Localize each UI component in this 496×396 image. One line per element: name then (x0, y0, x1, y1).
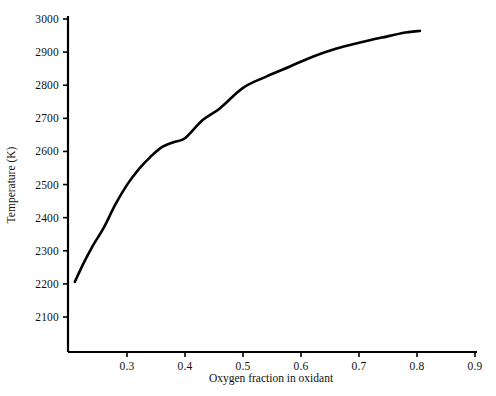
x-tick-label: 0.5 (236, 360, 251, 372)
axis-lines (68, 16, 477, 352)
y-axis-title: Temperature (K) (5, 147, 17, 224)
y-tick-label: 2100 (35, 311, 59, 323)
x-tick-label: 0.9 (468, 360, 483, 372)
data-series-line (75, 31, 420, 282)
y-tick-label: 2600 (35, 145, 59, 157)
y-tick-label: 2700 (35, 112, 59, 124)
y-tick-label: 2400 (35, 212, 59, 224)
y-tick-label: 3000 (35, 13, 59, 25)
x-axis-title: Oxygen fraction in oxidant (209, 372, 333, 384)
plot-area (0, 0, 496, 396)
y-tick-label: 2900 (35, 46, 59, 58)
x-tick-label: 0.3 (120, 360, 135, 372)
x-tick-label: 0.8 (410, 360, 425, 372)
x-tick-label: 0.7 (352, 360, 367, 372)
y-tick-label: 2500 (35, 179, 59, 191)
x-tick-label: 0.4 (178, 360, 193, 372)
x-tick-label: 0.6 (294, 360, 309, 372)
chart-figure: 2100220023002400250026002700280029003000… (0, 0, 496, 396)
y-tick-label: 2200 (35, 278, 59, 290)
y-tick-label: 2800 (35, 79, 59, 91)
y-tick-label: 2300 (35, 245, 59, 257)
